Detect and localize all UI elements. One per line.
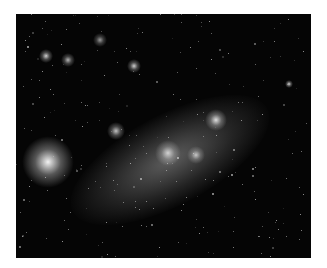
star-speck: [76, 170, 78, 172]
star-speck: [108, 15, 109, 16]
star-speck: [166, 170, 167, 171]
star-speck: [160, 14, 161, 15]
star-speck: [208, 252, 209, 253]
star-speck: [299, 239, 300, 240]
star-speck: [292, 153, 293, 154]
star-speck: [119, 94, 120, 95]
star-speck: [106, 222, 107, 223]
star-speck: [122, 226, 123, 227]
star-speck: [168, 137, 169, 138]
star-speck: [255, 199, 256, 200]
star-speck: [274, 28, 275, 29]
star-speck: [262, 114, 263, 115]
star-speck: [172, 38, 173, 39]
cluster-upper-right: [205, 109, 227, 131]
star-speck: [203, 112, 204, 113]
star-speck: [254, 191, 255, 192]
star-speck: [295, 131, 296, 132]
star-speck: [183, 121, 184, 122]
star-speck: [262, 226, 263, 227]
star-speck: [81, 80, 82, 81]
star-speck: [211, 59, 212, 60]
star-speck: [76, 169, 77, 170]
star-speck: [160, 181, 161, 182]
star-speck: [39, 80, 40, 81]
star-speck: [274, 41, 275, 42]
star-speck: [99, 120, 100, 121]
star-speck: [101, 256, 103, 258]
star-speck: [32, 103, 34, 105]
star-speck: [116, 222, 117, 223]
star-speck: [31, 180, 32, 181]
star-speck: [288, 139, 289, 140]
star-speck: [23, 199, 25, 201]
star-speck: [180, 99, 181, 100]
star-speck: [159, 247, 160, 248]
star-speck: [257, 120, 258, 121]
star-speck: [287, 84, 288, 85]
star-speck: [31, 14, 32, 15]
star-speck: [55, 135, 56, 136]
star-speck: [81, 64, 82, 65]
star-speck: [113, 180, 114, 181]
star-speck: [303, 51, 304, 52]
star-speck: [88, 188, 89, 189]
star-speck: [286, 178, 287, 179]
star-speck: [61, 44, 62, 45]
star-speck: [176, 181, 177, 182]
star-speck: [135, 207, 136, 208]
star-speck: [207, 232, 208, 233]
star-speck: [81, 165, 82, 166]
star-speck: [218, 231, 219, 232]
star-speck: [196, 219, 197, 220]
star-speck: [195, 227, 196, 228]
star-speck: [75, 120, 76, 121]
star-speck: [39, 97, 40, 98]
star-speck: [142, 32, 143, 33]
star-speck: [31, 130, 32, 131]
star-speck: [300, 214, 301, 215]
star-speck: [42, 71, 43, 72]
star-speck: [261, 253, 262, 254]
star-speck: [232, 159, 233, 160]
star-speck: [98, 245, 99, 246]
star-speck: [275, 222, 276, 223]
star-speck: [87, 122, 88, 123]
star-speck: [286, 236, 287, 237]
star-speck: [213, 253, 214, 254]
star-speck: [53, 94, 54, 95]
star-speck: [196, 15, 197, 16]
star-speck: [271, 180, 272, 181]
star-speck: [203, 227, 204, 228]
star-speck: [29, 186, 30, 187]
star-speck: [81, 102, 82, 103]
star-speck: [42, 28, 43, 29]
star-speck: [85, 105, 86, 106]
star-speck: [205, 179, 206, 180]
star-speck: [47, 190, 48, 191]
star-speck: [172, 163, 173, 164]
star-speck: [86, 208, 87, 209]
star-speck: [193, 153, 194, 154]
star-speck: [201, 26, 202, 27]
star-speck: [61, 139, 63, 141]
star-speck: [97, 50, 98, 51]
star-speck: [97, 16, 98, 17]
star-speck: [258, 236, 259, 237]
star-speck: [130, 163, 131, 164]
star-speck: [183, 204, 184, 205]
star-speck: [233, 247, 234, 248]
star-speck: [294, 60, 295, 61]
star-speck: [228, 53, 229, 54]
star-speck: [115, 256, 116, 257]
star-speck: [211, 33, 212, 34]
star-speck: [22, 235, 24, 237]
star-speck: [121, 129, 122, 130]
star-speck: [219, 171, 221, 173]
star-speck: [20, 212, 21, 213]
star-speck: [95, 181, 96, 182]
star-speck: [107, 254, 108, 255]
star-speck: [301, 230, 302, 231]
star-speck: [37, 58, 39, 60]
star-speck: [273, 238, 274, 239]
